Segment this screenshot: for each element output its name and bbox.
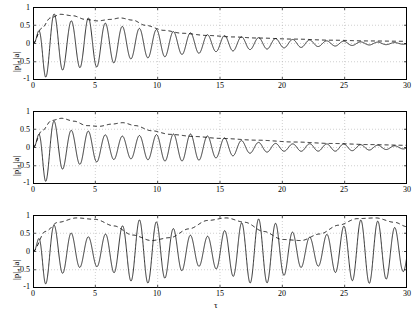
panel-c-xtick-15: 15 — [210, 289, 230, 298]
panel-b-xtick-0: 0 — [23, 185, 43, 194]
panel-b-plot — [33, 111, 407, 184]
panel-b-ytick-neg0_5: -0.5 — [5, 161, 30, 170]
panel-c-xtick-0: 0 — [23, 289, 43, 298]
panel-b-ytick-0_5: 0.5 — [7, 125, 30, 134]
panel-a-ytick-0_5: 0.5 — [7, 21, 30, 30]
panel-c-xtick-25: 25 — [334, 289, 354, 298]
x-axis-label: τ — [214, 300, 218, 310]
panel-c-xtick-30: 30 — [397, 289, 413, 298]
panel-c-plot — [33, 215, 407, 288]
panel-c-ytick-1: 1 — [11, 211, 30, 220]
panel-c-xtick-10: 10 — [147, 289, 167, 298]
panel-c-ytick-neg0_5: -0.5 — [5, 265, 30, 274]
panel-c-xtick-5: 5 — [85, 289, 105, 298]
panel-b-xtick-10: 10 — [147, 185, 167, 194]
panel-a-ytick-neg0_5: -0.5 — [5, 57, 30, 66]
panel-a-xtick-20: 20 — [272, 81, 292, 90]
panel-a: |p|, |a| (a) 1 0.5 0 -0.5 -1 0 5 10 15 2… — [0, 0, 413, 100]
panel-c: |p|, |a| (c) 1 0.5 0 -0.5 -1 0 5 10 15 2… — [0, 208, 413, 318]
panel-a-xtick-25: 25 — [334, 81, 354, 90]
panel-a-ytick-1: 1 — [11, 3, 30, 12]
panel-a-xtick-5: 5 — [85, 81, 105, 90]
panel-a-plot — [33, 7, 407, 80]
panel-c-ytick-0_5: 0.5 — [7, 229, 30, 238]
panel-b-xtick-30: 30 — [397, 185, 413, 194]
panel-a-xtick-30: 30 — [397, 81, 413, 90]
panel-c-xtick-20: 20 — [272, 289, 292, 298]
panel-c-ytick-0: 0 — [11, 247, 30, 256]
panel-b-xtick-5: 5 — [85, 185, 105, 194]
panel-b-ytick-0: 0 — [11, 143, 30, 152]
panel-a-xtick-0: 0 — [23, 81, 43, 90]
panel-b-xtick-20: 20 — [272, 185, 292, 194]
panel-a-xtick-10: 10 — [147, 81, 167, 90]
panel-b: |p|, |a| (b) 1 0.5 0 -0.5 -1 0 5 10 15 2… — [0, 104, 413, 204]
panel-a-xtick-15: 15 — [210, 81, 230, 90]
panel-a-ytick-0: 0 — [11, 39, 30, 48]
panel-b-xtick-25: 25 — [334, 185, 354, 194]
panel-b-ytick-1: 1 — [11, 107, 30, 116]
panel-b-xtick-15: 15 — [210, 185, 230, 194]
figure-root: |p|, |a| (a) 1 0.5 0 -0.5 -1 0 5 10 15 2… — [0, 0, 413, 318]
